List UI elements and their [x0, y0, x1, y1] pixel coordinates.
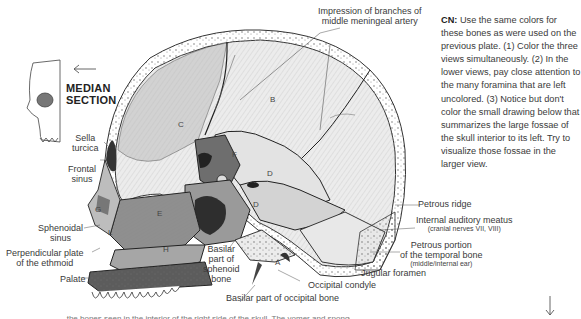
label-line: Perpendicular plate: [6, 248, 84, 258]
label-sphenoidal-sinus: Sphenoidal sinus: [38, 223, 83, 243]
label-line: Sphenoidal: [38, 223, 83, 233]
label-occipital-condyle: Occipital condyle: [308, 280, 376, 290]
label-line: part of: [203, 254, 240, 264]
label-line: turcica: [72, 143, 99, 153]
label-internal-auditory-meatus: Internal auditory meatus (cranial nerves…: [416, 215, 513, 233]
cn-prefix: CN:: [441, 15, 457, 25]
label-petrous-portion: Petrous portion of the temporal bone (mi…: [400, 240, 483, 268]
bone-letter-f: F: [232, 150, 237, 159]
bone-letter-a: A: [275, 258, 281, 267]
coloring-notes: CN: Use the same colors for these bones …: [441, 14, 581, 171]
bone-letter-e: E: [157, 209, 162, 218]
bone-letter-b: B: [270, 95, 275, 104]
left-arrow-icon: [74, 65, 96, 73]
label-frontal-sinus: Frontal sinus: [68, 164, 96, 184]
label-impression-meningeal-artery: Impression of branches of middle meninge…: [318, 6, 422, 26]
label-subline: (cranial nerves VII, VIII): [416, 225, 513, 233]
label-line: of the ethmoid: [6, 258, 84, 268]
label-line: Sella: [72, 133, 99, 143]
median-section-title: MEDIAN SECTION: [66, 82, 116, 106]
median-title-line-2: SECTION: [66, 94, 116, 106]
label-perpendicular-plate: Perpendicular plate of the ethmoid: [6, 248, 84, 268]
label-petrous-ridge: Petrous ridge: [418, 199, 472, 209]
label-basilar-occipital: Basilar part of occipital bone: [226, 293, 339, 303]
label-subline: (middle/internal ear): [400, 260, 483, 268]
bone-letter-h: H: [163, 245, 169, 254]
cn-text: Use the same colors for these bones as w…: [441, 15, 580, 169]
label-line: Impression of branches of: [318, 6, 422, 16]
down-arrow-icon: [546, 296, 554, 315]
label-line: Frontal: [68, 164, 96, 174]
bone-letter-c: C: [178, 120, 184, 129]
label-palate: Palate: [60, 274, 86, 284]
label-line: bone: [203, 274, 240, 284]
bone-letter-d: D: [253, 200, 259, 209]
label-line: Petrous portion: [400, 240, 483, 250]
bone-letter-d: D: [267, 169, 273, 178]
label-sella-turcica: Sella turcica: [72, 133, 99, 153]
label-basilar-sphenoid: Basilar part of sphenoid bone: [203, 244, 240, 284]
bone-letter-g: G: [95, 205, 101, 214]
label-line: sinus: [68, 174, 96, 184]
label-line: sphenoid: [203, 264, 240, 274]
label-line: middle meningeal artery: [318, 16, 422, 26]
bottom-cutoff-text: ...the bones seen in the interior of the…: [60, 313, 350, 319]
small-skull-drawing: [27, 60, 60, 142]
median-title-line-1: MEDIAN: [66, 82, 116, 94]
label-jugular-foramen: Jugular foramen: [361, 268, 426, 278]
label-line: Internal auditory meatus: [416, 215, 513, 225]
label-line: Basilar: [203, 244, 240, 254]
bone-letter-l: L: [108, 228, 113, 237]
label-line: of the temporal bone: [400, 250, 483, 260]
label-line: sinus: [38, 233, 83, 243]
